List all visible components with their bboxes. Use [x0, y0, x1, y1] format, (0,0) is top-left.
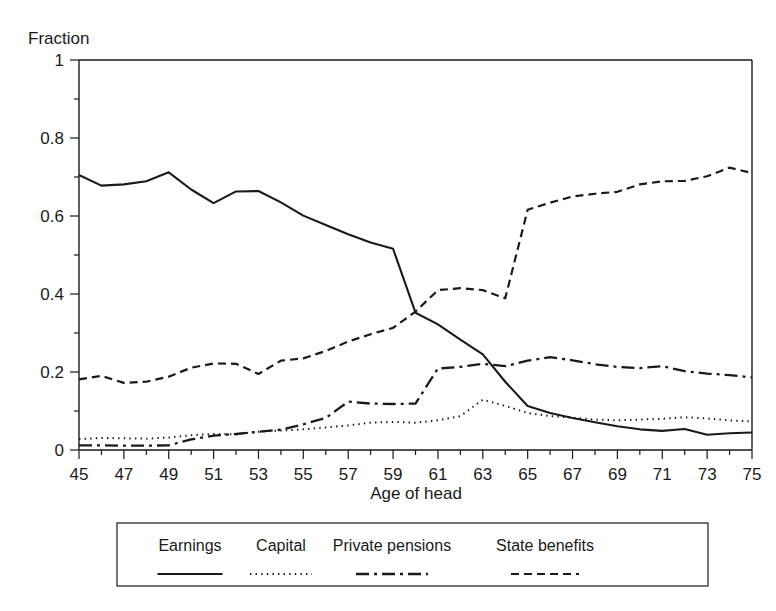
y-tick-label: 0.8: [40, 129, 64, 148]
x-tick-label: 75: [743, 465, 762, 484]
y-tick-label: 0: [55, 441, 64, 460]
x-tick-label: 45: [70, 465, 89, 484]
y-tick-label: 0.4: [40, 285, 64, 304]
x-tick-label: 65: [518, 465, 537, 484]
figure-background: [0, 0, 776, 611]
x-tick-label: 49: [159, 465, 178, 484]
y-tick-label: 0.6: [40, 207, 64, 226]
x-tick-label: 57: [339, 465, 358, 484]
legend-label-state-benefits: State benefits: [496, 537, 594, 554]
x-tick-label: 53: [249, 465, 268, 484]
x-tick-label: 71: [653, 465, 672, 484]
legend-label-earnings: Earnings: [158, 537, 221, 554]
x-tick-label: 67: [563, 465, 582, 484]
x-tick-label: 61: [428, 465, 447, 484]
y-tick-label: 0.2: [40, 363, 64, 382]
y-axis-title: Fraction: [28, 29, 89, 48]
x-tick-label: 73: [698, 465, 717, 484]
x-tick-label: 69: [608, 465, 627, 484]
x-tick-label: 51: [204, 465, 223, 484]
chart-figure: Fraction 00.20.40.60.81 4547495153555759…: [0, 0, 776, 611]
y-tick-label: 1: [55, 51, 64, 70]
x-tick-label: 59: [384, 465, 403, 484]
x-tick-label: 63: [473, 465, 492, 484]
x-axis-title: Age of head: [370, 484, 462, 503]
legend-label-capital: Capital: [256, 537, 306, 554]
x-tick-label: 55: [294, 465, 313, 484]
x-tick-label: 47: [114, 465, 133, 484]
legend-label-private-pensions: Private pensions: [333, 537, 451, 554]
